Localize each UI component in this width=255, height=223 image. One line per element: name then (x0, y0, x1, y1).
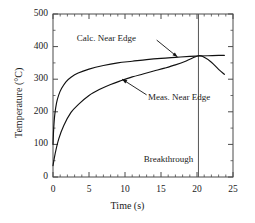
figure-chart: Temperature (°C) Time (s) 0510152025 010… (0, 0, 255, 223)
y-tick-label: 0 (23, 172, 48, 182)
x-tick-label: 0 (44, 185, 62, 195)
y-tick-label: 300 (23, 74, 48, 84)
x-tick-label: 15 (152, 185, 170, 195)
y-tick-label: 500 (23, 9, 48, 19)
y-tick-label: 200 (23, 107, 48, 117)
y-tick-label: 100 (23, 139, 48, 149)
y-tick-label: 400 (23, 42, 48, 52)
calc-label: Calc. Near Edge (77, 34, 136, 43)
x-tick-label: 10 (116, 185, 134, 195)
x-tick-label: 25 (224, 185, 242, 195)
x-tick-label: 20 (188, 185, 206, 195)
meas-label: Meas. Near Edge (148, 93, 210, 102)
breakthrough-label: Breakthrough (144, 155, 194, 164)
x-tick-label: 5 (80, 185, 98, 195)
x-axis-title: Time (s) (0, 201, 255, 211)
annotation-leaders (122, 40, 177, 95)
